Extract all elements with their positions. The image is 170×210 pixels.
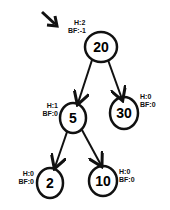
node-10: 10 <box>89 166 117 196</box>
node-10-label: H:0 BF:0 <box>119 168 135 184</box>
node-20-label: H:2 BF:-1 <box>68 19 86 35</box>
edge-20-5 <box>78 60 92 103</box>
height-label: H:0 <box>12 170 34 178</box>
height-label: H:1 <box>36 102 58 110</box>
node-2-label: H:0 BF:0 <box>12 170 34 186</box>
node-value: 20 <box>93 39 109 55</box>
node-value: 30 <box>116 105 132 121</box>
balance-factor-label: BF:0 <box>36 110 58 118</box>
balance-factor-label: BF:0 <box>119 176 135 184</box>
node-30: 30 <box>110 97 138 129</box>
balance-factor-label: BF:0 <box>12 178 34 186</box>
balance-factor-label: BF:-1 <box>68 27 86 35</box>
node-30-label: H:0 BF:0 <box>140 93 156 109</box>
node-20: 20 <box>85 32 117 62</box>
height-label: H:0 <box>119 168 135 176</box>
node-2: 2 <box>37 168 63 198</box>
edge-5-10 <box>82 130 101 165</box>
node-value: 2 <box>46 175 54 191</box>
height-label: H:0 <box>140 93 156 101</box>
balance-factor-label: BF:0 <box>140 101 156 109</box>
node-5-label: H:1 BF:0 <box>36 102 58 118</box>
edge-5-2 <box>55 132 67 167</box>
height-label: H:2 <box>68 19 86 27</box>
root-pointer-arrow-icon <box>42 12 57 26</box>
node-value: 5 <box>69 110 77 126</box>
node-5: 5 <box>60 103 86 133</box>
edge-20-30 <box>108 60 122 99</box>
node-value: 10 <box>95 173 111 189</box>
